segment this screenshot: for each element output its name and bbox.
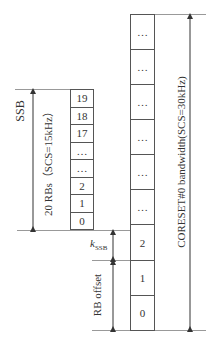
ssb-rb-column: 19 18 17 … … 2 1 0 — [70, 89, 94, 231]
kssb-label: kSSB — [90, 237, 107, 252]
coreset-rb-ellipsis-6: … — [130, 189, 155, 225]
kssb-subscript: SSB — [95, 244, 107, 252]
ssb-span-label: 20 RBs（SCS=15kHz） — [41, 101, 55, 221]
ssb-rb-ellipsis-1: … — [70, 142, 94, 161]
coreset-span-label: CORESET#0 bandwidth(SCS=30kHz) — [174, 72, 188, 252]
ssb-rb-0: 0 — [70, 212, 94, 231]
rb-offset-label: RB offset — [90, 265, 104, 325]
coreset-rb-ellipsis-2: … — [130, 49, 155, 85]
ssb-rb-1: 1 — [70, 194, 94, 213]
coreset-rb-ellipsis-3: … — [130, 84, 155, 120]
coreset-rb-ellipsis-4: … — [130, 119, 155, 155]
coreset-rb-ellipsis-5: … — [130, 154, 155, 190]
ssb-label: SSB — [13, 91, 27, 131]
ssb-rb-ellipsis-2: … — [70, 159, 94, 178]
ssb-rb-2: 2 — [70, 177, 94, 196]
coreset-rb-ellipsis-1: … — [130, 14, 155, 50]
coreset-rb-0: 0 — [130, 295, 155, 331]
ssb-rb-17: 17 — [70, 124, 94, 143]
ssb-rb-19: 19 — [70, 89, 94, 108]
coreset-rb-column: … … … … … … 2 1 0 — [130, 14, 155, 331]
ssb-rb-18: 18 — [70, 107, 94, 126]
coreset-rb-1: 1 — [130, 260, 155, 296]
coreset-rb-2: 2 — [130, 224, 155, 261]
